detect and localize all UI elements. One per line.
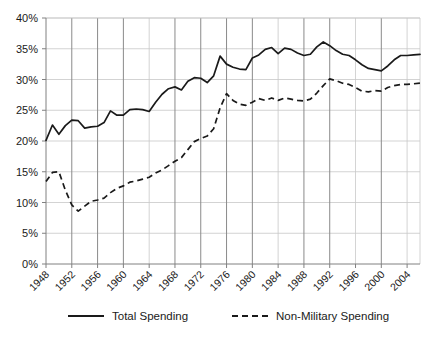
series-line-total-spending xyxy=(46,42,420,140)
y-tick-label: 25% xyxy=(16,104,38,116)
x-tick-label: 2000 xyxy=(362,268,387,293)
y-tick-label: 0% xyxy=(22,258,38,270)
y-axis-ticks xyxy=(42,18,46,264)
y-tick-label: 35% xyxy=(16,43,38,55)
x-tick-label: 1968 xyxy=(155,268,180,293)
chart-legend: Total Spending Non-Military Spending xyxy=(68,310,389,322)
y-tick-label: 15% xyxy=(16,166,38,178)
x-tick-label: 1948 xyxy=(26,268,51,293)
x-axis-ticks xyxy=(46,264,407,268)
x-tick-label: 1980 xyxy=(233,268,258,293)
x-tick-label: 1964 xyxy=(130,268,155,293)
y-tick-label: 5% xyxy=(22,227,38,239)
y-axis-labels: 0%5%10%15%20%25%30%35%40% xyxy=(16,12,38,270)
x-tick-label: 1992 xyxy=(310,268,335,293)
y-tick-label: 30% xyxy=(16,74,38,86)
x-tick-label: 1956 xyxy=(78,268,103,293)
legend-label-total-spending: Total Spending xyxy=(112,310,188,322)
y-tick-label: 10% xyxy=(16,197,38,209)
chart-container: 0%5%10%15%20%25%30%35%40% 19481952195619… xyxy=(0,0,434,340)
x-tick-label: 1976 xyxy=(207,268,232,293)
x-tick-label: 1984 xyxy=(259,268,284,293)
y-gridlines xyxy=(46,18,420,233)
spending-line-chart: 0%5%10%15%20%25%30%35%40% 19481952195619… xyxy=(0,0,434,340)
x-tick-label: 1996 xyxy=(336,268,361,293)
x-tick-label: 1972 xyxy=(181,268,206,293)
series-line-non-military-spending xyxy=(46,79,420,211)
x-tick-label: 1960 xyxy=(104,268,129,293)
legend-label-non-military-spending: Non-Military Spending xyxy=(276,310,389,322)
x-tick-label: 1952 xyxy=(52,268,77,293)
y-tick-label: 20% xyxy=(16,135,38,147)
x-tick-label: 2004 xyxy=(388,268,413,293)
x-tick-label: 1988 xyxy=(284,268,309,293)
x-axis-labels: 1948195219561960196419681972197619801984… xyxy=(26,268,412,293)
y-tick-label: 40% xyxy=(16,12,38,24)
